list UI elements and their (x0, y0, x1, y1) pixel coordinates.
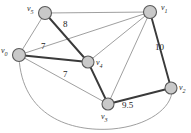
edge-v1-v4 (88, 12, 150, 62)
vertex-v2[interactable] (165, 82, 177, 94)
edge-v1-v3 (108, 12, 150, 104)
edge-weight-v5-v4: 8 (63, 20, 68, 29)
vertex-label-v5: v5 (27, 5, 34, 15)
edge-weight-v0-v4: 7 (41, 42, 46, 51)
vertex-v5[interactable] (39, 7, 52, 20)
edge-weight-v0-v3: 7 (63, 70, 68, 79)
vertex-label-v0: v0 (1, 47, 8, 57)
vertex-label-v4: v4 (96, 59, 103, 69)
edge-weight-v1-v2: 10 (155, 43, 164, 52)
vertex-label-v2: v2 (179, 84, 186, 94)
vertex-v3[interactable] (102, 98, 114, 110)
graph-figure: v5 v1 v0 v4 v3 v2 8 7 7 10 9.5 (0, 0, 191, 133)
edge-v0-v1 (19, 12, 150, 55)
vertex-label-v1: v1 (161, 4, 168, 14)
edge-weight-v3-v2: 9.5 (122, 101, 133, 110)
edge-v3-v2 (108, 88, 171, 104)
edge-v5-v1 (45, 12, 150, 13)
edge-v0-v3 (19, 55, 108, 104)
vertex-label-v3: v3 (101, 113, 108, 123)
vertex-v0[interactable] (13, 49, 26, 62)
vertex-v4[interactable] (82, 56, 94, 68)
vertex-v1[interactable] (144, 6, 157, 19)
